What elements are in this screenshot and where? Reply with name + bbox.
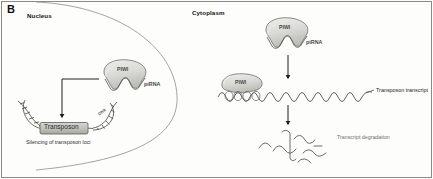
transcript-bound-piwi-label: PIWI	[235, 80, 246, 85]
cytoplasm-piwi-protein	[266, 18, 308, 48]
transcript-degradation-label: Transcript degradation	[337, 135, 390, 140]
transposon-label: Transposon	[44, 124, 79, 131]
diagram-canvas	[0, 0, 433, 179]
cytoplasm-pirna-label: piRNA	[306, 40, 322, 45]
nucleus-label: Nucleus	[27, 13, 52, 19]
cytoplasm-label: Cytoplasm	[192, 10, 225, 16]
nucleus-pirna-label: piRNA	[144, 82, 160, 87]
transposon-transcript-label: Transposon transcript	[376, 88, 428, 93]
dna-double-helix-right	[86, 102, 117, 130]
figure-panel-b: B Nucleus Cytoplasm PIWI piRNA DNA Trans…	[0, 0, 433, 179]
panel-letter: B	[7, 4, 15, 15]
figure-border	[2, 2, 432, 178]
silencing-caption: Silencing of transposon loci	[26, 140, 90, 145]
nucleus-piwi-label: PIWI	[117, 67, 128, 72]
nucleus-piwi-protein	[104, 60, 146, 90]
silencing-arrow	[62, 79, 99, 117]
transcript-fragments	[259, 130, 326, 163]
cytoplasm-piwi-label: PIWI	[279, 25, 290, 30]
